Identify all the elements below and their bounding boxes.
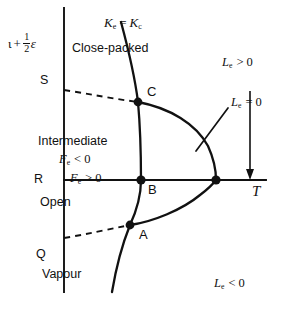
le-lt-base: L: [214, 276, 221, 290]
fraction-denominator: 2: [23, 44, 30, 55]
fe-lt-base: F: [59, 152, 67, 166]
kc-subscript: c: [138, 22, 142, 31]
le-gt-relation: > 0: [236, 55, 252, 69]
boundary-marker-Q: Q: [36, 248, 46, 261]
fe-lt-subscript: e: [67, 158, 70, 167]
horizontal-axis-label: T: [252, 184, 260, 199]
region-label-vapour: Vapour: [42, 268, 81, 281]
fe-gt-base: F: [70, 171, 78, 185]
kc-base: K: [130, 15, 139, 30]
le-gt-subscript: e: [229, 61, 232, 70]
point-label-B: B: [148, 183, 157, 196]
boundary-marker-R: R: [34, 173, 43, 186]
vertical-axis-label-trail: ε: [31, 36, 36, 51]
point-cusp-marker: [211, 175, 220, 184]
boundary-marker-S: S: [40, 74, 48, 87]
region-label-intermediate: Intermediate: [38, 135, 107, 148]
le-eq-relation: = 0: [245, 95, 261, 109]
le-lt-subscript: e: [221, 282, 224, 291]
point-B-marker: [136, 175, 145, 184]
phase-diagram-figure: ι+12ε T Close-packed Intermediate Open V…: [0, 0, 306, 312]
downward-arrow-head: [246, 169, 254, 180]
ke-relation: =: [119, 15, 126, 30]
le-gt-base: L: [222, 55, 229, 69]
annotation-le-less-zero: Le< 0: [214, 277, 245, 291]
le-equals-zero-loop-lower: [130, 180, 216, 225]
q-to-a-dashed-boundary: [64, 225, 130, 238]
s-to-c-dashed-boundary: [64, 90, 138, 102]
ke-base: K: [104, 15, 113, 30]
diagram-canvas: [0, 0, 306, 312]
annotation-le-equals-zero: Le= 0: [231, 96, 262, 110]
annotation-fe-greater-zero: Fe> 0: [70, 172, 102, 186]
le-lt-relation: < 0: [228, 276, 244, 290]
point-label-A: A: [139, 228, 148, 241]
ke-subscript: e: [113, 22, 117, 31]
annotation-le-greater-zero: Le> 0: [222, 56, 253, 70]
region-label-open: Open: [40, 196, 71, 209]
vertical-axis-label-plus: +: [14, 36, 21, 51]
fe-gt-subscript: e: [78, 177, 81, 186]
vertical-axis-label: ι+12ε: [8, 32, 36, 54]
vertical-axis-label-lead: ι: [8, 36, 12, 51]
fe-gt-relation: > 0: [85, 171, 101, 185]
point-label-C: C: [147, 85, 156, 98]
le-eq-subscript: e: [238, 101, 241, 110]
ke-equals-kc-curve: [112, 22, 141, 292]
vertical-axis-label-fraction: 12: [23, 32, 30, 54]
le-eq-base: L: [231, 95, 238, 109]
fe-lt-relation: < 0: [74, 152, 90, 166]
point-A-marker: [126, 221, 135, 230]
fraction-numerator: 1: [23, 32, 30, 44]
region-label-close-packed: Close-packed: [72, 42, 148, 55]
point-C-marker: [134, 98, 143, 107]
annotation-ke-equals-kc: Ke=Kc: [104, 16, 142, 31]
le-equals-zero-leader-line: [196, 108, 228, 151]
annotation-fe-less-zero: Fe< 0: [59, 153, 91, 167]
